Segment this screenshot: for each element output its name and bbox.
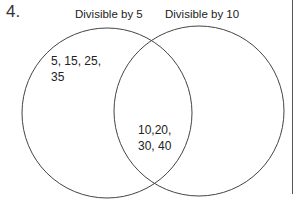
region-text-line: 5, 15, 25,	[51, 53, 121, 69]
region-intersection: 10,20, 30, 40	[138, 122, 198, 154]
set-label-divisible-by-5: Divisible by 5	[75, 8, 143, 20]
region-text-line: 30, 40	[138, 138, 198, 154]
circle-divisible-by-10	[114, 26, 284, 196]
set-label-divisible-by-10: Divisible by 10	[165, 8, 239, 20]
question-number: 4.	[6, 2, 20, 22]
region-text-line: 35	[51, 69, 121, 85]
region-only-divisible-by-5: 5, 15, 25, 35	[51, 53, 121, 85]
venn-diagram-shapes	[0, 0, 300, 205]
region-text-line: 10,20,	[138, 122, 198, 138]
